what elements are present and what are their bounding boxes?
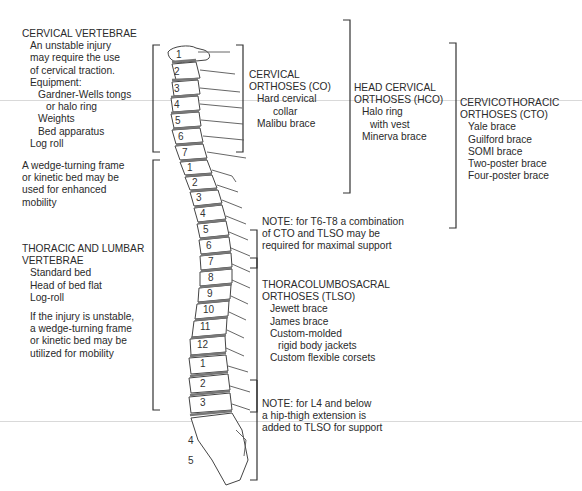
thoracolumbar-bracket-left (153, 160, 160, 410)
co-bracket (236, 45, 243, 152)
cto-bracket (449, 43, 456, 228)
svg-text:5: 5 (175, 115, 181, 126)
note-l4: NOTE: for L4 and below a hip-thigh exten… (262, 398, 382, 435)
svg-text:12: 12 (197, 339, 209, 350)
svg-text:5: 5 (203, 224, 209, 235)
cervical-vertebrae-section: CERVICAL VERTEBRAE An unstable injury ma… (22, 28, 137, 150)
thoracic-lumbar-section: THORACIC AND LUMBAR VERTEBRAE Standard b… (22, 243, 144, 360)
svg-text:7: 7 (208, 256, 214, 267)
svg-text:11: 11 (200, 321, 211, 332)
svg-text:4: 4 (174, 99, 180, 110)
tlso-bracket (250, 258, 257, 412)
svg-text:2: 2 (174, 66, 180, 77)
svg-text:1: 1 (187, 162, 193, 173)
svg-text:3: 3 (200, 397, 206, 408)
svg-text:1: 1 (176, 49, 182, 60)
svg-text:4: 4 (188, 435, 194, 446)
section-title: THORACIC AND LUMBAR (22, 243, 144, 255)
hco-bracket (343, 20, 350, 193)
svg-text:8: 8 (208, 272, 214, 283)
svg-text:9: 9 (207, 288, 213, 299)
l4-bracket (250, 380, 257, 480)
svg-text:6: 6 (206, 240, 212, 251)
wedge-frame-note: A wedge-turning frame or kinetic bed may… (22, 160, 125, 209)
svg-text:10: 10 (203, 304, 215, 315)
t6-t8-bracket (250, 230, 257, 268)
cto-section: CERVICOTHORACIC ORTHOSES (CTO) Yale brac… (460, 97, 559, 182)
note-t6-t8: NOTE: for T6-T8 a combination of CTO and… (262, 216, 404, 253)
hco-section: HEAD CERVICAL ORTHOSES (HCO) Halo ring w… (354, 82, 443, 143)
svg-text:3: 3 (196, 192, 202, 203)
svg-text:5: 5 (188, 455, 194, 466)
section-title: CERVICAL VERTEBRAE (22, 28, 137, 40)
svg-text:6: 6 (178, 131, 184, 142)
svg-text:7: 7 (182, 147, 188, 158)
tlso-section: THORACOLUMBOSACRAL ORTHOSES (TLSO) Jewet… (262, 279, 390, 364)
svg-text:2: 2 (200, 378, 206, 389)
cervical-bracket-left (153, 45, 160, 152)
co-section: CERVICAL ORTHOSES (CO) Hard cervical col… (249, 69, 331, 130)
svg-text:4: 4 (200, 208, 206, 219)
svg-text:3: 3 (174, 83, 180, 94)
svg-text:2: 2 (192, 177, 198, 188)
svg-text:1: 1 (200, 358, 206, 369)
